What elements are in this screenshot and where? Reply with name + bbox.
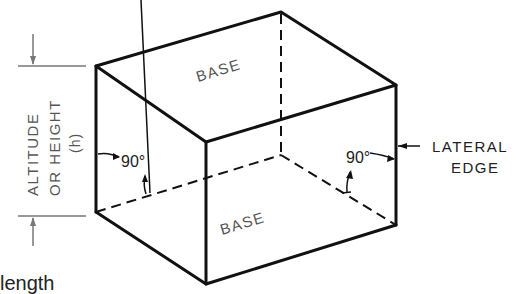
svg-text:OR HEIGHT: OR HEIGHT (46, 99, 63, 196)
prism-diagram: BASE BASE ALTITUDE OR HEIGHT (h) 90° 90°… (0, 0, 532, 294)
lateral-edge-label-line1: LATERAL (432, 138, 508, 155)
hidden-bottom-right-edge (281, 155, 396, 225)
left-angle-label: 90° (121, 153, 145, 170)
hidden-edges (96, 14, 396, 225)
bottom-base-label: BASE (218, 208, 267, 238)
svg-text:(h): (h) (67, 133, 83, 153)
altitude-label: ALTITUDE OR HEIGHT (h) (24, 99, 83, 196)
top-face-edges (96, 12, 396, 142)
lateral-edge-pointer (398, 143, 420, 149)
svg-text:ALTITUDE: ALTITUDE (24, 113, 41, 196)
top-base-label: BASE (194, 55, 243, 85)
partial-caption: length (0, 272, 55, 294)
lateral-edge-label-line2: EDGE (451, 159, 500, 176)
right-angle-label: 90° (346, 149, 370, 166)
visible-edges (96, 12, 396, 284)
